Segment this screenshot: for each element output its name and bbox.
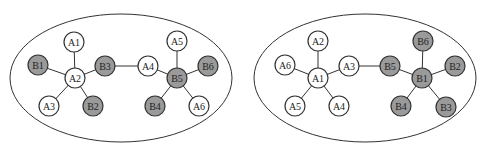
node-label-A4: A4 <box>142 61 154 72</box>
node-label-A2: A2 <box>69 73 81 84</box>
node-label-A5: A5 <box>171 36 183 47</box>
node-label-B5: B5 <box>171 73 183 84</box>
group-ellipse <box>254 14 476 142</box>
node-label-B2: B2 <box>87 101 99 112</box>
node-label-A1: A1 <box>312 73 324 84</box>
network-diagrams-canvas: A1B1A2B3A3B2A4A5B5B6B4A6 A2A6A1A3A5A4B5B… <box>0 0 485 149</box>
node-label-B3: B3 <box>99 61 111 72</box>
node-label-B1: B1 <box>416 73 428 84</box>
node-label-B6: B6 <box>417 36 429 47</box>
right-network-diagram: A2A6A1A3A5A4B5B6B1B2B4B3 <box>254 14 476 142</box>
node-label-B4: B4 <box>149 101 161 112</box>
node-label-B6: B6 <box>202 61 214 72</box>
node-label-A6: A6 <box>279 60 291 71</box>
group-ellipse <box>10 14 232 142</box>
node-label-A5: A5 <box>289 101 301 112</box>
node-label-A3: A3 <box>343 61 355 72</box>
node-label-A1: A1 <box>68 37 80 48</box>
node-label-A2: A2 <box>312 36 324 47</box>
node-label-B2: B2 <box>449 61 461 72</box>
node-label-A6: A6 <box>193 101 205 112</box>
node-label-B4: B4 <box>395 101 407 112</box>
node-label-B1: B1 <box>32 60 44 71</box>
left-network-diagram: A1B1A2B3A3B2A4A5B5B6B4A6 <box>10 14 232 142</box>
node-label-B5: B5 <box>384 61 396 72</box>
node-label-A3: A3 <box>43 101 55 112</box>
node-label-B3: B3 <box>440 102 452 113</box>
node-label-A4: A4 <box>333 101 345 112</box>
